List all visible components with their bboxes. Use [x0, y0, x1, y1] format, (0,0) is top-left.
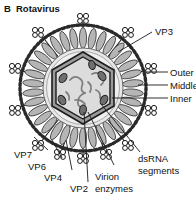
label-vp7: VP7: [14, 149, 32, 160]
label-vp2: VP2: [70, 183, 88, 194]
label-segments: segments: [138, 165, 179, 176]
panel-letter: B: [4, 3, 11, 14]
label-middle: Middle: [170, 80, 196, 91]
label-virion: Virion: [95, 171, 119, 182]
label-outer: Outer: [170, 67, 194, 78]
label-vp3: VP3: [155, 26, 173, 37]
vp6-petal: [79, 28, 86, 49]
label-vp6: VP6: [28, 161, 46, 172]
page-title: Rotavirus: [16, 3, 60, 14]
label-enzymes: enzymes: [95, 183, 133, 194]
label-inner: Inner: [170, 93, 192, 104]
rotavirus-structure-figure: B Rotavirus: [0, 0, 196, 197]
label-dsrna: dsRNA: [138, 153, 169, 164]
label-vp4: VP4: [44, 172, 62, 183]
